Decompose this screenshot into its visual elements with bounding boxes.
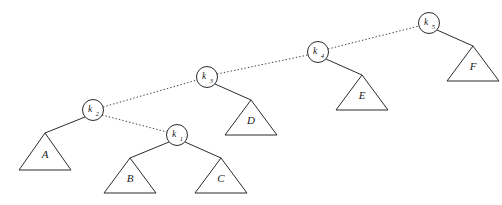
subtree-F: F — [447, 46, 499, 81]
solid-edge-k5-F — [437, 30, 473, 46]
subtree-C: C — [195, 158, 247, 193]
solid-edge-k4-E — [326, 59, 362, 75]
subtree-label-F: F — [469, 60, 477, 72]
node-circle-k4 — [308, 42, 329, 63]
dotted-edge-k2-k3 — [103, 80, 197, 107]
node-k3: k 3 — [197, 67, 218, 88]
node-circle-k5 — [419, 13, 440, 34]
node-k2: k 2 — [83, 100, 104, 121]
node-k4: k 4 — [308, 42, 329, 63]
subtree-label-C: C — [217, 172, 225, 184]
node-circle-k3 — [197, 67, 218, 88]
solid-edge-group — [45, 30, 473, 158]
solid-edge-k3-D — [215, 84, 251, 100]
subtree-label-D: D — [246, 114, 255, 126]
subtree-label-A: A — [41, 148, 49, 160]
tree-diagram: A B C D E F — [0, 0, 502, 205]
dotted-edge-k3-k4 — [217, 55, 308, 74]
node-circle-k1 — [167, 125, 188, 146]
node-subscript-k1: 1 — [180, 135, 183, 142]
subtree-A: A — [19, 133, 71, 170]
subtree-E: E — [336, 75, 388, 110]
node-subscript-k3: 3 — [209, 77, 214, 84]
dotted-edge-k4-k5 — [328, 26, 419, 49]
subtree-label-E: E — [358, 89, 366, 101]
node-circle-k2 — [83, 100, 104, 121]
tree-diagram-canvas: A B C D E F — [0, 0, 502, 205]
subtree-D: D — [225, 100, 277, 135]
node-k5: k 5 — [419, 13, 440, 34]
dotted-edge-k2-k1 — [102, 115, 167, 132]
solid-edge-k1-B — [130, 142, 169, 158]
subtree-label-B: B — [127, 172, 134, 184]
solid-edge-k2-A — [45, 117, 85, 133]
node-k1: k 1 — [167, 125, 188, 146]
subtree-B: B — [104, 158, 156, 193]
solid-edge-k1-C — [185, 142, 221, 158]
